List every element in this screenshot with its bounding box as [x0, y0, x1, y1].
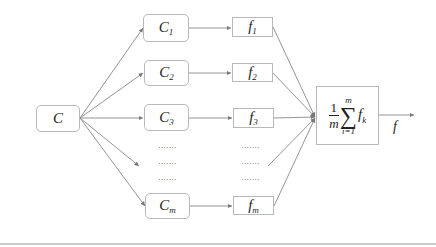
fraction: 1 m — [329, 101, 339, 130]
ellipsis-right-2: ······· — [241, 160, 260, 168]
component-node-cm: Cm — [145, 193, 190, 219]
f1-sub: 1 — [252, 26, 257, 36]
cm-label: C — [159, 197, 169, 213]
input-node-c: C — [36, 105, 80, 132]
f3-sub: 3 — [253, 117, 258, 127]
c1-sub: 1 — [169, 27, 174, 37]
component-node-c2: C2 — [144, 60, 189, 86]
fraction-numerator: 1 — [331, 101, 338, 114]
arrow-f2-to-agg — [273, 73, 315, 117]
ellipsis-left-1: ······· — [158, 144, 177, 152]
arrow-fm-to-agg — [274, 118, 315, 206]
ensemble-diagram: C C1 C2 C3 Cm f1 f2 f3 fm ······· ······… — [0, 0, 436, 247]
function-node-f1: f1 — [232, 17, 273, 37]
c2-label: C — [159, 64, 169, 80]
function-node-f3: f3 — [233, 108, 274, 128]
component-node-c3: C3 — [144, 104, 189, 131]
input-node-label: C — [53, 110, 63, 127]
c3-label: C — [159, 109, 169, 125]
ellipsis-left-3: ······· — [158, 176, 177, 184]
c1-label: C — [159, 19, 169, 35]
arrow-f1-to-agg — [273, 27, 315, 117]
fm-sub: m — [252, 205, 259, 215]
summation: m ∑ i=1 — [340, 96, 357, 136]
function-node-fm: fm — [233, 196, 274, 215]
component-node-c1: C1 — [143, 14, 189, 42]
arrow-c-to-cm — [80, 118, 145, 206]
cm-sub: m — [169, 205, 176, 215]
c3-sub: 3 — [169, 117, 174, 127]
sigma-symbol: ∑ — [340, 105, 357, 127]
function-node-f2: f2 — [232, 63, 273, 82]
arrow-c-to-c2 — [80, 73, 143, 118]
arrow-f3-to-agg — [274, 117, 315, 118]
f2-sub: 2 — [252, 72, 257, 82]
sum-lower-limit: i=1 — [342, 127, 355, 136]
aggregator-node: 1 m m ∑ i=1 fk — [316, 86, 379, 145]
c2-sub: 2 — [169, 72, 174, 82]
sum-term-sub: k — [362, 115, 366, 125]
arrow-ellipsis-to-agg — [268, 118, 315, 166]
arrow-c-to-ellipsis — [80, 118, 139, 166]
ellipsis-left-2: ······· — [158, 160, 177, 168]
output-label: f — [393, 119, 397, 135]
fraction-denominator: m — [329, 117, 338, 130]
arrow-c-to-c1 — [80, 28, 143, 118]
ellipsis-right-3: ······· — [241, 176, 260, 184]
ellipsis-right-1: ······· — [241, 144, 260, 152]
